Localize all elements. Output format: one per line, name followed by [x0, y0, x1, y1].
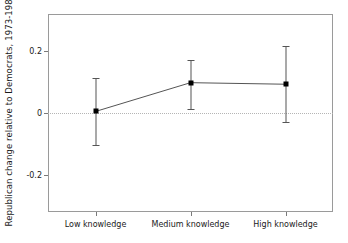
- data-point-marker: [93, 109, 98, 114]
- y-axis-tick-mark: [44, 113, 48, 114]
- x-axis-tick-label: Medium knowledge: [152, 220, 230, 229]
- y-axis-tick-labels: 0.20-0.2: [14, 0, 42, 243]
- data-point-marker: [188, 80, 193, 85]
- x-axis-tick-label: Low knowledge: [65, 220, 127, 229]
- error-bar-cap: [92, 78, 99, 79]
- y-axis-tick-label: 0.2: [16, 47, 42, 56]
- y-axis-title-text: Republican change relative to Democrats,…: [4, 0, 14, 226]
- x-axis-tick-mark: [191, 212, 192, 216]
- chart-figure: Republican change relative to Democrats,…: [0, 0, 348, 243]
- error-bar-cap: [282, 122, 289, 123]
- x-axis-tick-mark: [286, 212, 287, 216]
- plot-area: [48, 14, 333, 212]
- error-bar-cap: [187, 109, 194, 110]
- error-bar-cap: [92, 145, 99, 146]
- series-line-path: [48, 14, 333, 212]
- y-axis-tick-mark: [44, 175, 48, 176]
- error-bar-cap: [282, 46, 289, 47]
- y-axis-tick-mark: [44, 51, 48, 52]
- data-point-marker: [283, 82, 288, 87]
- y-axis-tick-label: 0: [16, 109, 42, 118]
- x-axis-tick-mark: [96, 212, 97, 216]
- error-bar-cap: [187, 60, 194, 61]
- x-axis-tick-label: High knowledge: [253, 220, 317, 229]
- y-axis-tick-label: -0.2: [16, 170, 42, 179]
